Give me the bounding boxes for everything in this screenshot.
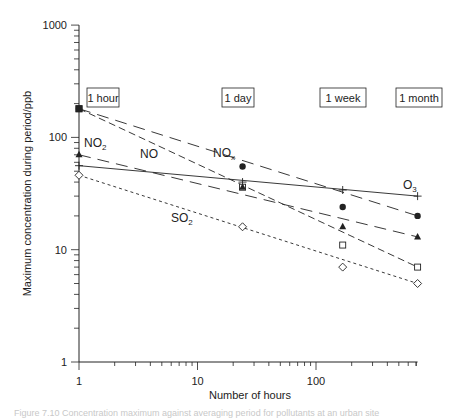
series-label-nox: NOx <box>213 146 235 162</box>
period-label: 1 month <box>399 92 439 104</box>
marker-open-diamond <box>339 263 347 271</box>
marker-filled-square <box>76 105 83 112</box>
series-line <box>79 155 418 237</box>
x-tick-label: 100 <box>307 375 325 387</box>
marker-filled-circle <box>239 163 245 169</box>
y-tick-label: 1000 <box>43 19 67 31</box>
marker-open-square <box>340 242 346 248</box>
series-o3 <box>75 162 422 200</box>
series-label-no: NO <box>140 147 158 161</box>
series-label-so2: SO2 <box>171 211 193 227</box>
marker-open-diamond <box>239 223 247 231</box>
marker-filled-circle <box>414 213 420 219</box>
series-label-no2: NO2 <box>84 136 107 152</box>
period-label: 1 week <box>326 92 361 104</box>
marker-plus <box>339 186 347 194</box>
marker-open-diamond <box>75 171 83 179</box>
series-nox <box>76 106 421 220</box>
marker-filled-circle <box>339 204 345 210</box>
series-no <box>76 105 421 270</box>
x-tick-label: 10 <box>191 375 203 387</box>
x-axis-label: Number of hours <box>209 389 291 401</box>
x-tick-label: 1 <box>76 375 82 387</box>
marker-filled-triangle <box>76 151 83 158</box>
y-tick-label: 100 <box>49 131 67 143</box>
marker-plus <box>75 162 83 170</box>
series-line <box>79 109 418 216</box>
chart: 1101001000110100Number of hoursMaximum c… <box>0 0 459 419</box>
period-label: 1 hour <box>87 92 119 104</box>
y-tick-label: 1 <box>61 356 67 368</box>
series-line <box>79 109 418 267</box>
period-label: 1 day <box>225 92 252 104</box>
series-label-o3: O3 <box>403 178 417 194</box>
marker-filled-triangle <box>339 223 346 230</box>
series-line <box>79 166 418 196</box>
marker-open-square <box>415 264 421 270</box>
y-axis-label: Maximum concentration during period/ppb <box>21 91 33 296</box>
marker-open-diamond <box>414 280 422 288</box>
series-so2 <box>75 171 422 287</box>
series-no2 <box>76 151 422 240</box>
figure-caption: Figure 7.10 Concentration maximum agains… <box>14 408 454 418</box>
y-tick-label: 10 <box>55 244 67 256</box>
